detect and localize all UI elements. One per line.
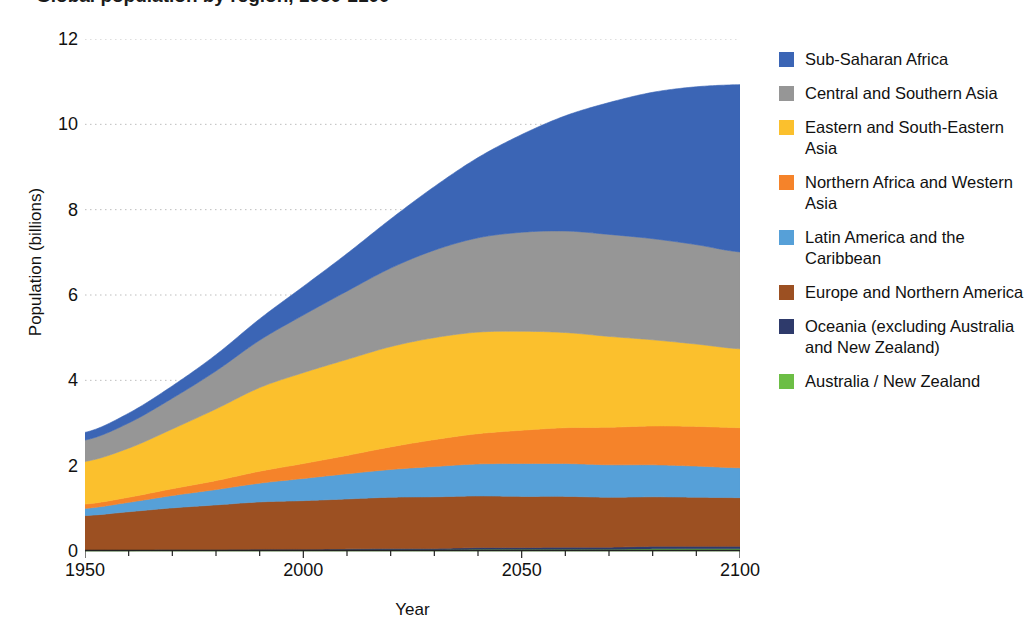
legend-item-label: Sub-Saharan Africa	[805, 49, 948, 70]
y-axis-tick-label: 0	[38, 541, 78, 562]
stacked-area-svg	[85, 39, 740, 560]
legend-item-label: Northern Africa and Western Asia	[805, 172, 1027, 214]
legend-color-swatch	[779, 86, 794, 101]
legend-item[interactable]: Central and Southern Asia	[779, 83, 1027, 104]
legend-color-swatch	[779, 120, 794, 135]
y-axis-tick-label: 4	[38, 370, 78, 391]
legend-item[interactable]: Sub-Saharan Africa	[779, 49, 1027, 70]
x-axis-tick-label: 2100	[695, 560, 785, 581]
legend-color-swatch	[779, 374, 794, 389]
y-axis-tick-label: 8	[38, 199, 78, 220]
legend-item-label: Australia / New Zealand	[805, 371, 980, 392]
x-axis-label: Year	[85, 600, 740, 620]
x-axis-tick-label: 2000	[258, 560, 348, 581]
plot-area	[85, 39, 740, 551]
y-axis-tick-label: 2	[38, 455, 78, 476]
legend-item-label: Eastern and South-Eastern Asia	[805, 117, 1027, 159]
x-axis-tick-label: 2050	[477, 560, 567, 581]
chart-legend: Sub-Saharan AfricaCentral and Southern A…	[779, 49, 1027, 405]
legend-item-label: Oceania (excluding Australia and New Zea…	[805, 316, 1027, 358]
legend-item[interactable]: Latin America and the Caribbean	[779, 227, 1027, 269]
y-axis-tick-label: 6	[38, 285, 78, 306]
legend-color-swatch	[779, 285, 794, 300]
legend-color-swatch	[779, 175, 794, 190]
y-axis-tick-label: 10	[38, 114, 78, 135]
legend-item[interactable]: Northern Africa and Western Asia	[779, 172, 1027, 214]
x-axis-ticks	[85, 551, 740, 558]
legend-color-swatch	[779, 230, 794, 245]
legend-color-swatch	[779, 319, 794, 334]
y-axis-tick-label: 12	[38, 29, 78, 50]
area-series-group	[85, 85, 740, 551]
chart-title: Global population by region, 1950-2100	[36, 0, 776, 8]
legend-item[interactable]: Oceania (excluding Australia and New Zea…	[779, 316, 1027, 358]
x-axis-tick-label: 1950	[40, 560, 130, 581]
chart-figure: Global population by region, 1950-2100 P…	[0, 0, 1030, 637]
legend-item[interactable]: Eastern and South-Eastern Asia	[779, 117, 1027, 159]
x-axis-tick-labels: 1950200020502100	[85, 560, 740, 590]
legend-item[interactable]: Europe and Northern America	[779, 282, 1027, 303]
y-axis-tick-labels: 024681012	[28, 39, 78, 551]
legend-item[interactable]: Australia / New Zealand	[779, 371, 1027, 392]
legend-item-label: Central and Southern Asia	[805, 83, 998, 104]
legend-item-label: Europe and Northern America	[805, 282, 1023, 303]
legend-color-swatch	[779, 52, 794, 67]
legend-item-label: Latin America and the Caribbean	[805, 227, 1027, 269]
